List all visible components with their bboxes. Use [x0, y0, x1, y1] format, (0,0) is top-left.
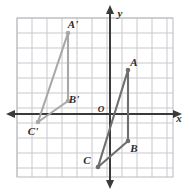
y-axis-label: y — [116, 7, 123, 19]
coordinate-plane-svg: x y O ABCA'B'C' — [0, 0, 190, 193]
vertex-label-c: C — [83, 154, 91, 166]
vertex-point-c-prime — [36, 120, 41, 125]
x-axis-label: x — [175, 112, 182, 124]
vertex-markers — [36, 31, 131, 170]
y-axis-arrow-down-icon — [106, 180, 114, 189]
grid-lines — [17, 18, 173, 177]
triangles — [38, 33, 128, 167]
vertex-label-a: A — [129, 56, 137, 68]
vertex-label-b-prime: B' — [68, 93, 79, 105]
triangle-abc — [98, 70, 128, 167]
vertex-point-c — [96, 165, 101, 170]
y-axis-arrow-up-icon — [106, 5, 114, 14]
vertex-point-a-prime — [66, 31, 71, 36]
vertex-label-c-prime: C' — [28, 125, 38, 137]
origin-label: O — [98, 104, 105, 114]
vertex-label-a-prime: A' — [67, 18, 78, 30]
x-axis-arrow-left-icon — [6, 110, 15, 118]
vertex-point-a — [126, 68, 131, 73]
vertex-label-b: B — [129, 142, 137, 154]
coordinate-plane-figure: x y O ABCA'B'C' — [0, 0, 190, 193]
